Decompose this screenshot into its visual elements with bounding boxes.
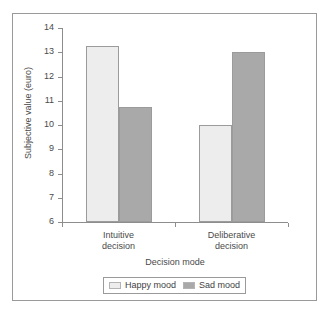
- x-axis-category-label: Deliberativedecision: [177, 230, 287, 252]
- x-axis-tick: [62, 223, 63, 227]
- y-axis-tick: [58, 52, 62, 53]
- y-axis-tick-label: 13: [40, 47, 54, 56]
- y-axis-tick: [58, 101, 62, 102]
- legend-entry-sad-mood[interactable]: Sad mood: [183, 281, 240, 290]
- y-axis-tick-label: 8: [40, 169, 54, 178]
- y-axis-tick: [58, 174, 62, 175]
- y-axis-tick-label: 10: [40, 120, 54, 129]
- legend-label-happy-mood: Happy mood: [125, 281, 176, 290]
- y-axis-tick: [58, 198, 62, 199]
- chart-legend: Happy mood Sad mood: [103, 277, 246, 294]
- x-axis-tick: [175, 223, 176, 227]
- x-axis-category-label-line: decision: [177, 241, 287, 252]
- y-axis-tick-label: 11: [40, 96, 54, 105]
- y-axis-tick: [58, 125, 62, 126]
- x-axis-category-label-line: decision: [64, 241, 174, 252]
- y-axis-line: [62, 28, 63, 223]
- x-axis-category-label-line: Intuitive: [64, 230, 174, 241]
- x-axis-title: Decision mode: [62, 257, 288, 268]
- y-axis-tick: [58, 77, 62, 78]
- x-axis-category-label: Intuitivedecision: [64, 230, 174, 252]
- y-axis-tick: [58, 149, 62, 150]
- y-axis-tick-label: 12: [40, 72, 54, 81]
- x-axis-tick: [288, 223, 289, 227]
- y-axis-tick-label: 9: [40, 144, 54, 153]
- y-axis-tick: [58, 28, 62, 29]
- legend-swatch-happy-mood: [109, 282, 121, 289]
- bar-happy-mood-deliberative: [199, 125, 232, 222]
- x-axis-category-label-line: Deliberative: [177, 230, 287, 241]
- legend-entry-happy-mood[interactable]: Happy mood: [109, 281, 176, 290]
- y-axis-title: Subjective value (euro): [23, 53, 33, 173]
- legend-swatch-sad-mood: [183, 282, 195, 289]
- y-axis-tick-label: 14: [40, 23, 54, 32]
- y-axis-tick-label: 7: [40, 193, 54, 202]
- bar-sad-mood-intuitive: [119, 107, 152, 222]
- bar-sad-mood-deliberative: [232, 52, 265, 222]
- y-axis-tick-label: 6: [40, 217, 54, 226]
- bar-happy-mood-intuitive: [86, 46, 119, 222]
- legend-label-sad-mood: Sad mood: [199, 281, 240, 290]
